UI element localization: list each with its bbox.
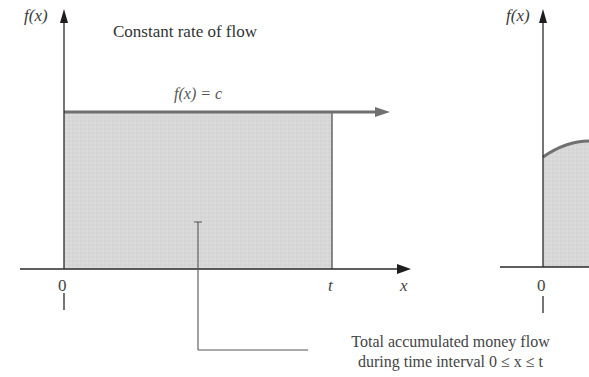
right-graph (500, 9, 589, 313)
variable-flow-area (543, 141, 589, 267)
function-label: f(x) = c (174, 86, 222, 102)
money-flow-diagram: f(x) Constant rate of flow f(x) = c 0 t … (0, 0, 589, 377)
diagram-graphics (0, 0, 589, 377)
graph-title: Constant rate of flow (113, 23, 257, 40)
x-tick-zero: 0 (58, 277, 67, 294)
x-axis-label: x (400, 277, 408, 294)
annotation-line-2: during time interval 0 ≤ x ≤ t (312, 352, 589, 372)
annotation-line-1: Total accumulated money flow (312, 332, 589, 352)
right-x-tick-zero: 0 (537, 277, 546, 294)
accumulated-flow-annotation: Total accumulated money flow during time… (312, 332, 589, 372)
right-y-axis-arrow-icon (539, 9, 547, 23)
function-arrow-icon (375, 107, 390, 117)
x-axis-arrow-icon (397, 264, 411, 274)
y-axis-arrow-icon (60, 9, 68, 23)
left-graph (20, 9, 411, 350)
x-tick-t: t (328, 277, 333, 294)
right-y-axis-label: f(x) (506, 7, 530, 24)
left-y-axis-label: f(x) (24, 7, 48, 24)
